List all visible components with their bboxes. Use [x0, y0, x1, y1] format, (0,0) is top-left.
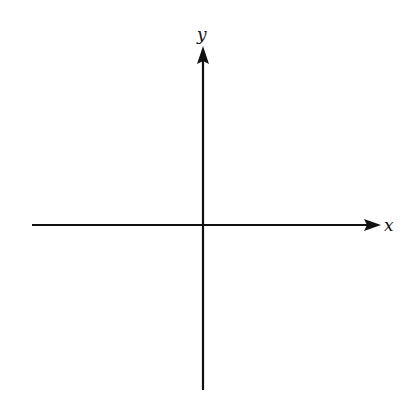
y-axis: y — [196, 24, 209, 390]
x-axis: x — [32, 215, 394, 235]
x-axis-label: x — [384, 215, 394, 235]
coordinate-axes-diagram: x y — [0, 0, 418, 402]
y-axis-label: y — [196, 24, 207, 44]
